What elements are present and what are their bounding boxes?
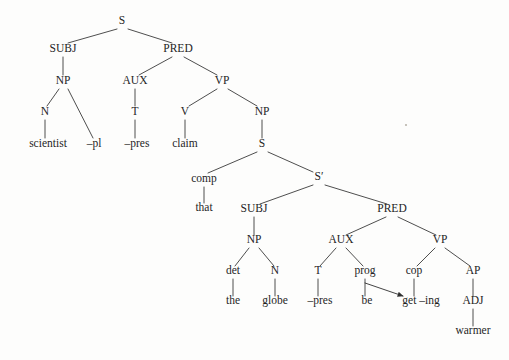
tree-edge-n10-n13 (228, 89, 257, 106)
syntax-tree-figure: SSUBJPREDNPNscientist–plAUXT–presVPVclai… (0, 0, 509, 360)
terminal-node-n12: claim (172, 137, 198, 149)
category-node-n28: prog (354, 264, 375, 277)
category-node-n20: det (226, 264, 241, 276)
category-node-n17: S′ (315, 170, 324, 182)
category-node-n34: ADJ (462, 294, 484, 306)
category-node-n13: NP (255, 105, 270, 117)
terminal-node-n6: –pl (86, 137, 102, 150)
category-node-n10: VP (215, 74, 230, 86)
terminal-node-n32: get –ing (402, 294, 440, 307)
tree-edge-layer (45, 29, 473, 326)
tree-edge-n14-n15 (208, 152, 257, 173)
category-node-n25: AUX (329, 233, 355, 245)
category-node-n4: N (41, 105, 50, 117)
category-node-n24: PRED (377, 202, 406, 214)
terminal-node-n27: –pres (307, 294, 333, 307)
category-node-n11: V (181, 105, 190, 117)
category-node-n7: AUX (123, 74, 149, 86)
tree-edge-n0-n1 (68, 29, 117, 43)
category-node-n1: SUBJ (50, 42, 77, 54)
tree-node-layer: SSUBJPREDNPNscientist–plAUXT–presVPVclai… (29, 14, 491, 336)
tree-edge-n17-n18 (260, 185, 313, 204)
tree-edge-n3-n6 (68, 89, 93, 138)
tree-edge-n10-n11 (189, 89, 217, 106)
tree-edge-n0-n2 (128, 29, 172, 43)
category-node-n30: VP (433, 233, 448, 245)
tree-edge-n25-n26 (320, 248, 336, 266)
category-node-n14: S (259, 137, 265, 149)
tree-edge-n3-n4 (47, 89, 59, 106)
tree-edge-n24-n30 (398, 217, 436, 235)
syntax-tree-canvas: SSUBJPREDNPNscientist–plAUXT–presVPVclai… (0, 0, 509, 360)
terminal-node-n21: the (226, 294, 240, 306)
page-speck-layer (405, 124, 407, 126)
terminal-node-n35: warmer (455, 324, 490, 336)
category-node-n22: N (271, 264, 280, 276)
tree-edge-n2-n7 (139, 57, 172, 75)
category-node-n3: NP (56, 74, 71, 86)
category-node-n2: PRED (163, 42, 192, 54)
category-node-n18: SUBJ (241, 202, 268, 214)
tree-edge-n2-n10 (184, 57, 217, 75)
terminal-node-n5: scientist (29, 137, 67, 149)
terminal-node-n23: globe (262, 294, 288, 307)
category-node-n33: AP (466, 264, 481, 276)
terminal-node-n16: that (195, 201, 213, 213)
scan-speck (405, 124, 407, 126)
category-node-n31: cop (406, 264, 423, 277)
category-node-n26: T (314, 264, 321, 276)
terminal-node-n29: be (362, 294, 373, 306)
category-node-n15: comp (191, 172, 217, 185)
terminal-node-n9: –pres (124, 137, 150, 150)
category-node-n19: NP (247, 233, 262, 245)
category-node-n0: S (119, 14, 125, 26)
tree-edge-n14-n17 (268, 152, 313, 172)
category-node-n8: T (131, 105, 138, 117)
